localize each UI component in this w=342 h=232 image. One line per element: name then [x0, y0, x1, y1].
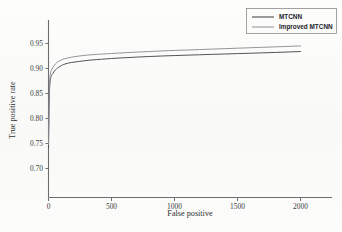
- x-tick-label: 1500: [230, 202, 245, 211]
- y-tick-label: 0.95: [30, 39, 43, 48]
- x-tick-label: 2000: [293, 202, 308, 211]
- roc-curve-plot: 0.700.750.800.850.900.95 050010001500200…: [0, 0, 342, 232]
- y-tick-label: 0.70: [30, 164, 43, 173]
- y-tick-label: 0.85: [30, 89, 43, 98]
- series-line-mtcnn: [49, 52, 301, 148]
- y-axis-title: True positive rate: [8, 81, 17, 139]
- y-tick-label: 0.80: [30, 114, 43, 123]
- legend-label-improved-mtcnn: Improved MTCNN: [279, 23, 333, 31]
- x-axis-title: False positive: [167, 209, 213, 218]
- y-tick-label: 0.90: [30, 64, 43, 73]
- x-tick-label: 500: [106, 202, 117, 211]
- y-tick-label: 0.75: [30, 139, 43, 148]
- legend-label-mtcnn: MTCNN: [279, 13, 302, 20]
- legend: MTCNN Improved MTCNN: [247, 9, 337, 34]
- series-group: [49, 46, 301, 148]
- x-tick-label: 0: [47, 202, 51, 211]
- y-axis-ticks: 0.700.750.800.850.900.95: [30, 39, 48, 173]
- chart-figure: 0.700.750.800.850.900.95 050010001500200…: [0, 0, 342, 232]
